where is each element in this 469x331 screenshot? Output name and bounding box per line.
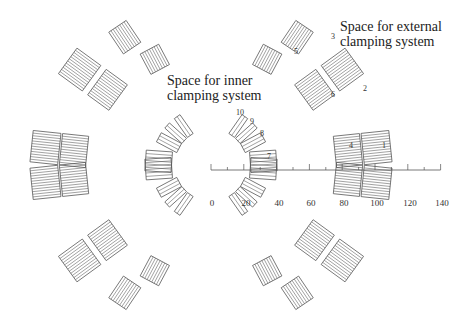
block-label-5: 5 (294, 47, 298, 56)
tick-label-60: 60 (307, 198, 316, 208)
tick-label-80: 80 (340, 198, 349, 208)
tick-label-40: 40 (275, 198, 284, 208)
block-label-7: 7 (267, 152, 271, 161)
tick-label-120: 120 (403, 198, 417, 208)
coil-cross-section-diagram (0, 0, 469, 331)
external-annotation-line2: clamping system (340, 34, 442, 49)
block-label-4: 4 (349, 141, 353, 150)
tick-label-140: 140 (435, 198, 449, 208)
tick-label-100: 100 (370, 198, 384, 208)
tick-label-0: 0 (210, 198, 215, 208)
block-label-8: 8 (260, 129, 264, 138)
external-annotation-line1: Space for external (340, 19, 442, 34)
inner-clamping-annotation: Space for inner clamping system (167, 73, 262, 103)
block-label-6: 6 (331, 90, 335, 99)
block-label-2: 2 (363, 84, 367, 93)
block-label-9: 9 (250, 117, 254, 126)
block-label-1: 1 (382, 141, 386, 150)
block-label-3: 3 (331, 32, 335, 41)
tick-label-20: 20 (242, 198, 251, 208)
inner-annotation-line1: Space for inner (167, 73, 262, 88)
external-clamping-annotation: Space for external clamping system (340, 19, 442, 49)
block-label-10: 10 (236, 108, 244, 117)
inner-annotation-line2: clamping system (167, 88, 262, 103)
